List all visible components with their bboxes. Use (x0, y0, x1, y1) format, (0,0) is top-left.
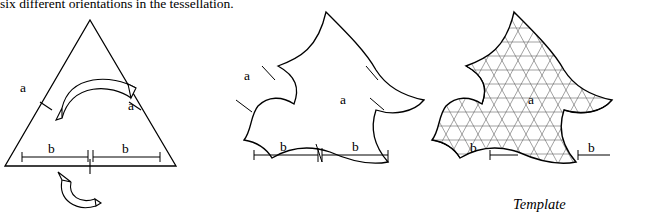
curved-tile-tick-upper-left (262, 66, 275, 80)
triangle-b-left-measure (22, 150, 88, 162)
figure-curved-tile: a a b b (236, 12, 424, 163)
template-label-b-right: b (588, 140, 595, 155)
template-inner-curve-bottom (432, 140, 460, 158)
curved-tile-tick-upper-right (366, 66, 378, 80)
triangle-rotation-arrow-top (56, 79, 136, 120)
curved-tile-tick-bottom (316, 144, 322, 162)
triangle-tick-left (40, 102, 52, 110)
curved-tile-tick-right (370, 98, 384, 110)
triangle-label-b-right: b (122, 141, 129, 156)
template-label-a-right: a (528, 92, 534, 107)
curved-tile-outline (244, 12, 424, 163)
figure-triangle: a a b b (5, 20, 176, 208)
template-label-b-left: b (470, 140, 477, 155)
triangle-rotation-arrow-bottom (58, 172, 101, 208)
triangle-label-a-left: a (20, 80, 26, 95)
triangle-label-a-right: a (128, 98, 134, 113)
figure-template-tile: a b b (372, 0, 648, 182)
curved-tile-label-b-right: b (352, 139, 359, 154)
curved-tile-label-a-left: a (244, 68, 250, 83)
curved-tile-label-b-left: b (280, 139, 287, 154)
triangle-label-b-left: b (48, 141, 55, 156)
template-tile-outline (432, 12, 612, 163)
template-inner-curve-right (564, 100, 612, 113)
figure-svg: a a b b a a (0, 0, 649, 222)
curved-tile-tick-left (236, 100, 252, 112)
figure-page: six different orientations in the tessel… (0, 0, 649, 222)
curved-tile-label-a-right: a (340, 92, 346, 107)
triangle-outline (5, 20, 176, 166)
template-b-left-measure (490, 150, 518, 160)
